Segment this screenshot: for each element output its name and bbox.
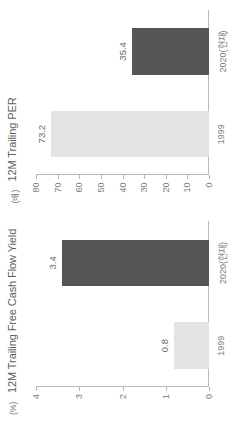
bar-value-label: 73.2 — [36, 125, 47, 144]
y-axis-tick-label: 60 — [74, 176, 84, 193]
chart-unit-label: (배) — [8, 190, 20, 204]
bar-1999: 0.81999 — [174, 322, 209, 368]
y-axis-tick-label: 10 — [182, 176, 192, 193]
chart-panel-per: (배) 12M Trailing PER 01020304050607080 7… — [0, 0, 249, 212]
y-axis-tick-label: 2 — [118, 387, 128, 399]
y-axis-tick-label: 0 — [204, 176, 214, 188]
category-label: 1999 — [216, 336, 226, 356]
chart-title: 12M Trailing Free Cash Flow Yield — [6, 229, 18, 393]
bar-value-label: 3.4 — [47, 256, 58, 269]
y-axis-tick-label: 4 — [31, 387, 41, 399]
bar-2020(현재): 3.42020(현재) — [62, 240, 209, 286]
y-axis-tick-label: 1 — [161, 387, 171, 399]
y-axis-tick-label: 20 — [161, 176, 171, 193]
chart-unit-label: (%) — [8, 401, 18, 415]
y-axis-tick-label: 30 — [139, 176, 149, 193]
plot-area-per: 01020304050607080 73.2199935.42020(현재) — [36, 10, 209, 176]
bar-1999: 73.21999 — [51, 111, 209, 157]
y-axis-tick-label: 50 — [96, 176, 106, 193]
y-axis-tick-label: 80 — [31, 176, 41, 193]
figure: (%) 12M Trailing Free Cash Flow Yield 01… — [0, 0, 249, 423]
bar-value-label: 0.8 — [159, 339, 170, 352]
y-axis-tick-label: 3 — [74, 387, 84, 399]
chart-title: 12M Trailing PER — [6, 98, 18, 182]
y-axis-tick-label: 0 — [204, 387, 214, 399]
bar-value-label: 35.4 — [117, 42, 128, 61]
y-axis-tick-label: 70 — [53, 176, 63, 193]
category-label: 2020(현재) — [216, 242, 229, 284]
bar-2020(현재): 35.42020(현재) — [132, 28, 209, 74]
chart-panel-fcf-yield: (%) 12M Trailing Free Cash Flow Yield 01… — [0, 212, 249, 423]
rotated-figure-wrapper: (%) 12M Trailing Free Cash Flow Yield 01… — [0, 0, 249, 423]
category-label: 2020(현재) — [216, 30, 229, 72]
y-axis-tick-label: 40 — [118, 176, 128, 193]
category-label: 1999 — [216, 124, 226, 144]
plot-area-fcf-yield: 01234 0.819993.42020(현재) — [36, 222, 209, 388]
